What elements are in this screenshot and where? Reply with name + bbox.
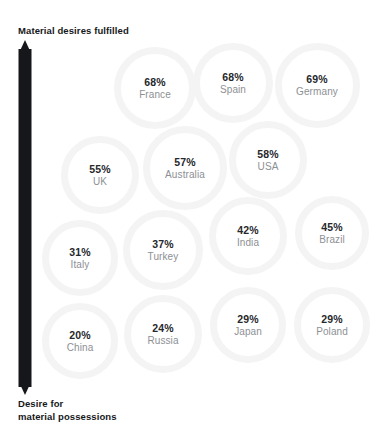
bubble-label: India xyxy=(237,238,259,248)
chart-title: Material desires fulfilled xyxy=(18,25,129,36)
bubble-value: 68% xyxy=(144,77,165,88)
bubble-label: Russia xyxy=(147,336,178,346)
double-arrow-icon xyxy=(14,40,36,395)
bubble-poland[interactable]: 29%Poland xyxy=(294,287,370,363)
bubble-label: Poland xyxy=(316,327,348,337)
bubble-turkey[interactable]: 37%Turkey xyxy=(123,210,203,290)
bubble-label: China xyxy=(67,343,94,353)
bubble-value: 20% xyxy=(69,330,90,341)
bubble-chart-canvas: Material desires fulfilled Desire for ma… xyxy=(0,0,377,441)
bubble-label: Italy xyxy=(71,260,90,270)
bubble-label: Australia xyxy=(165,170,205,180)
bubble-value: 69% xyxy=(306,74,327,85)
bubble-label: France xyxy=(139,90,171,100)
bubble-china[interactable]: 20%China xyxy=(42,303,118,379)
bubble-australia[interactable]: 57%Australia xyxy=(143,126,227,210)
bubble-france[interactable]: 68%France xyxy=(114,47,196,129)
bubble-value: 31% xyxy=(69,247,90,258)
y-axis-label-line-2: material possessions xyxy=(18,411,117,424)
bubble-usa[interactable]: 58%USA xyxy=(229,121,307,199)
bubble-brazil[interactable]: 45%Brazil xyxy=(295,196,369,270)
bubble-value: 29% xyxy=(237,314,258,325)
y-axis-label-line-1: Desire for xyxy=(18,398,117,411)
bubble-germany[interactable]: 69%Germany xyxy=(275,43,360,128)
bubble-india[interactable]: 42%India xyxy=(209,197,287,275)
bubble-spain[interactable]: 68%Spain xyxy=(193,43,273,123)
bubble-value: 55% xyxy=(89,164,110,175)
bubble-italy[interactable]: 31%Italy xyxy=(42,220,118,296)
bubble-label: Japan xyxy=(234,327,262,337)
bubble-label: Spain xyxy=(220,85,246,95)
bubble-value: 45% xyxy=(321,222,342,233)
bubble-value: 37% xyxy=(152,239,173,250)
bubble-label: USA xyxy=(258,162,279,172)
bubble-value: 42% xyxy=(237,225,258,236)
bubble-uk[interactable]: 55%UK xyxy=(61,136,139,214)
bubble-value: 68% xyxy=(222,72,243,83)
bubble-value: 58% xyxy=(257,149,278,160)
bubble-label: Germany xyxy=(296,87,338,97)
bubble-japan[interactable]: 29%Japan xyxy=(210,287,286,363)
bubble-label: UK xyxy=(93,177,107,187)
bubble-value: 29% xyxy=(321,314,342,325)
bubble-russia[interactable]: 24%Russia xyxy=(124,295,202,373)
vertical-double-arrow-axis xyxy=(14,40,36,395)
bubble-value: 57% xyxy=(174,157,195,168)
bubble-value: 24% xyxy=(152,323,173,334)
bubble-label: Turkey xyxy=(148,252,179,262)
y-axis-label: Desire for material possessions xyxy=(18,398,117,423)
bubble-label: Brazil xyxy=(319,235,345,245)
